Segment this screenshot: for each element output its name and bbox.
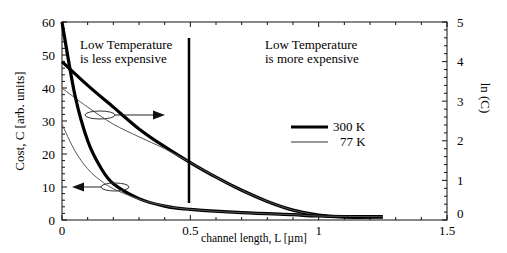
- y2-axis-title: ln (C): [478, 83, 493, 114]
- annotation-less-expensive-line1: Low Temperature: [80, 37, 173, 52]
- series-77k-lnC: [62, 88, 383, 217]
- annotation-more-expensive-line1: Low Temperature: [265, 37, 358, 52]
- series-300k-lnC: [62, 62, 383, 218]
- y2-tick-label: 0: [457, 206, 464, 221]
- x-tick-label: 1: [315, 223, 322, 238]
- y-tick-label: 10: [42, 180, 55, 195]
- annotation-less-expensive-line2: is less expensive: [80, 51, 167, 66]
- arrow-right-icon: [153, 111, 165, 120]
- legend: 300 K 77 K: [291, 119, 366, 149]
- legend-label-300k: 300 K: [333, 119, 366, 134]
- x-tick-label: 0: [59, 223, 66, 238]
- ellipse-marker-lnC: [85, 111, 115, 119]
- x-axis-title: channel length, L [µm]: [201, 232, 307, 245]
- y2-tick-label: 2: [457, 133, 464, 148]
- cost-vs-channel-length-chart: 00.511.50102030405060012345 Low Temperat…: [0, 0, 507, 253]
- legend-label-77k: 77 K: [340, 134, 366, 149]
- y-tick-label: 40: [42, 81, 55, 96]
- y2-tick-label: 4: [457, 54, 464, 69]
- y-tick-label: 30: [42, 114, 55, 129]
- arrow-left-icon: [72, 183, 84, 192]
- x-tick-label: 1.5: [439, 223, 455, 238]
- annotation-more-expensive-line2: is more expensive: [265, 51, 359, 66]
- y2-tick-label: 1: [457, 173, 464, 188]
- series-77k-cost: [62, 124, 383, 216]
- y-tick-label: 0: [49, 213, 56, 228]
- y-tick-label: 60: [42, 15, 55, 30]
- y2-tick-label: 5: [457, 15, 464, 30]
- y-axis-title: Cost, C [arb. units]: [12, 71, 27, 170]
- x-tick-label: 0.5: [182, 223, 198, 238]
- y2-tick-label: 3: [457, 94, 464, 109]
- y-tick-label: 20: [42, 147, 55, 162]
- y-tick-label: 50: [42, 48, 55, 63]
